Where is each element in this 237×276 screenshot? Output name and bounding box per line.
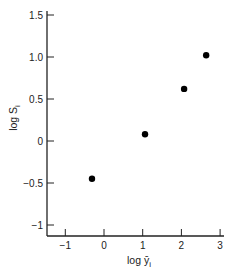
- data-point: [142, 131, 148, 137]
- x-axis-label: log ȳi: [127, 254, 151, 269]
- y-axis-label: log Si: [7, 105, 22, 131]
- y-tick-label: 0.5: [29, 94, 43, 105]
- x-tick-label: 1: [140, 240, 146, 251]
- x-axis-ticks: −10123: [60, 229, 224, 251]
- x-tick-label: 2: [179, 240, 185, 251]
- x-tick-label: 3: [217, 240, 223, 251]
- scatter-chart: 1.51.00.50−0.5−1 −10123 log Si log ȳi: [0, 0, 237, 276]
- y-axis-ticks: 1.51.00.50−0.5−1: [23, 10, 54, 231]
- y-tick-label: 1.0: [29, 52, 43, 63]
- y-tick-label: −1: [32, 220, 44, 231]
- y-tick-label: 0: [37, 136, 43, 147]
- x-tick-label: −1: [60, 240, 72, 251]
- y-tick-label: −0.5: [23, 178, 43, 189]
- data-points: [89, 52, 210, 182]
- data-point: [181, 86, 187, 92]
- data-point: [89, 176, 95, 182]
- y-tick-label: 1.5: [29, 10, 43, 21]
- axes: [47, 11, 224, 236]
- data-point: [203, 52, 209, 58]
- x-tick-label: 0: [101, 240, 107, 251]
